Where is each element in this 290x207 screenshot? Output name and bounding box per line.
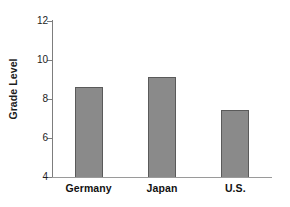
x-axis-label: Japan bbox=[147, 182, 178, 194]
bar bbox=[148, 77, 176, 177]
bar-chart-figure: Grade Level 4681012 GermanyJapanU.S. bbox=[0, 0, 290, 207]
x-axis-line bbox=[52, 177, 272, 178]
plot-area: 4681012 GermanyJapanU.S. bbox=[52, 21, 272, 177]
y-axis-title-label: Grade Level bbox=[7, 58, 19, 119]
x-axis-label: U.S. bbox=[225, 182, 246, 194]
x-axis-label: Germany bbox=[66, 182, 112, 194]
y-tick-label: 12 bbox=[37, 14, 48, 28]
bar bbox=[75, 87, 103, 177]
y-axis-title: Grade Level bbox=[0, 0, 26, 177]
y-tick-label: 8 bbox=[42, 92, 48, 106]
bar bbox=[221, 110, 249, 177]
y-tick-label: 10 bbox=[37, 53, 48, 67]
y-tick-label: 4 bbox=[42, 170, 48, 184]
y-axis-line bbox=[52, 20, 53, 178]
y-tick-label: 6 bbox=[42, 131, 48, 145]
